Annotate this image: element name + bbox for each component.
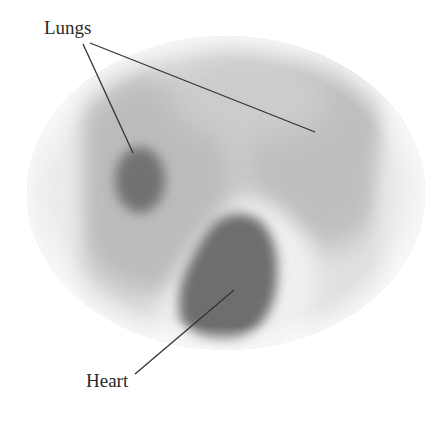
tomography-figure: Lungs Heart [0, 0, 442, 421]
cross-section-image [0, 0, 442, 421]
lungs-label: Lungs [44, 18, 92, 37]
heart-label: Heart [86, 371, 128, 390]
body-section [0, 0, 442, 421]
